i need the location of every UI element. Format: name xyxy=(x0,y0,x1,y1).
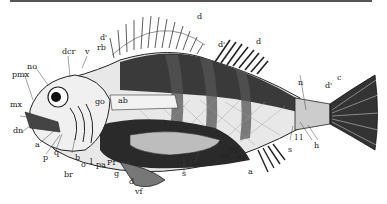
label-g: g xyxy=(114,170,119,178)
label-pa: pa xyxy=(96,161,106,169)
label-d-prime-spiny: d' xyxy=(100,34,107,42)
label-d-ventral: d xyxy=(129,178,134,186)
label-s-mid: s xyxy=(182,170,186,178)
label-q: q xyxy=(54,149,59,157)
label-b: b xyxy=(75,154,80,162)
label-ov: ov xyxy=(192,160,201,168)
label-d-prime-soft: d' xyxy=(218,41,225,49)
label-pf: Pf xyxy=(107,159,115,167)
label-c: c xyxy=(337,74,341,82)
label-pmx: pmx xyxy=(12,71,29,79)
label-s-tail: s xyxy=(288,146,292,154)
label-ap: ap xyxy=(237,153,247,161)
label-dcr: dcr xyxy=(62,48,75,56)
caudal-peduncle xyxy=(295,98,330,130)
label-ab: ab xyxy=(118,97,128,105)
label-lateral-line: l l xyxy=(295,134,303,142)
label-an: an xyxy=(220,152,230,160)
label-v: v xyxy=(85,48,90,56)
anal-fin xyxy=(258,144,285,172)
label-mx: mx xyxy=(10,101,22,109)
label-n: n xyxy=(298,79,303,87)
label-go: go xyxy=(95,98,105,106)
label-o: o xyxy=(81,161,86,169)
pupil xyxy=(51,92,61,102)
label-a-anal: a xyxy=(248,168,253,176)
label-h: h xyxy=(314,142,319,150)
label-d-soft-dorsal: d xyxy=(256,38,261,46)
label-vf: vf xyxy=(135,188,142,196)
label-d-prime-caudal: d' xyxy=(325,82,332,90)
caudal-fin xyxy=(330,75,378,150)
label-l: l xyxy=(90,158,93,166)
spiny-dorsal-fin xyxy=(110,16,205,58)
label-d-spiny-dorsal: d xyxy=(197,13,202,21)
label-br: br xyxy=(64,171,73,179)
label-dn: dn xyxy=(13,127,23,135)
label-p: p xyxy=(43,154,48,162)
label-a-jaw: a xyxy=(35,141,40,149)
label-rb: rb xyxy=(97,44,106,52)
perch-illustration xyxy=(0,0,387,204)
